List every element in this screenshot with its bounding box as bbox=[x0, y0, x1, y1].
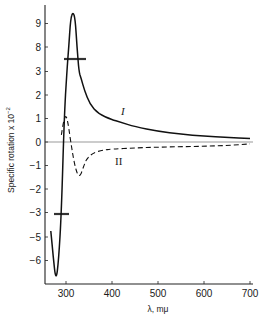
y-tick-label: −5 bbox=[30, 232, 42, 243]
x-tick-label: 500 bbox=[150, 288, 167, 299]
tick-labels: 983210−1−2−3−5−6300400500600700 bbox=[30, 18, 259, 299]
curve-label-I: I bbox=[120, 105, 126, 117]
y-tick-label: 2 bbox=[35, 90, 41, 101]
x-tick-label: 600 bbox=[196, 288, 213, 299]
y-tick-label: 1 bbox=[35, 113, 41, 124]
y-tick-label: −1 bbox=[30, 160, 42, 171]
y-tick-label: 3 bbox=[35, 66, 41, 77]
data-series bbox=[51, 14, 250, 276]
x-tick-label: 400 bbox=[104, 288, 121, 299]
curve-II bbox=[61, 117, 250, 176]
y-tick-label: −2 bbox=[30, 184, 42, 195]
y-tick-label: −6 bbox=[30, 255, 42, 266]
y-tick-label: 0 bbox=[35, 137, 41, 148]
x-tick-label: 700 bbox=[242, 288, 259, 299]
x-axis-title: λ, mμ bbox=[148, 304, 169, 314]
y-tick-label: 9 bbox=[35, 18, 41, 29]
optical-rotation-chart: 983210−1−2−3−5−6300400500600700 Specific… bbox=[0, 0, 266, 317]
x-tick-label: 300 bbox=[58, 288, 75, 299]
axis-break-markers bbox=[54, 59, 86, 214]
curve-label-II: II bbox=[115, 155, 123, 167]
y-tick-label: −3 bbox=[30, 207, 42, 218]
curve-I bbox=[51, 14, 250, 276]
y-tick-label: 8 bbox=[35, 42, 41, 53]
y-axis-title: Specific rotation x 10−2 bbox=[5, 106, 16, 192]
axes bbox=[45, 5, 253, 284]
